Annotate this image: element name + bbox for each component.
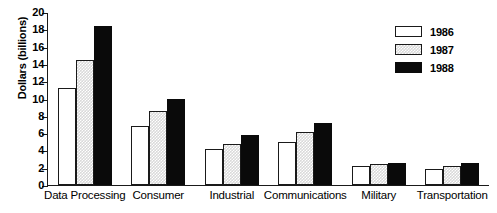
bar-data-processing-1987: [76, 60, 94, 185]
bar-data-processing-1986: [58, 88, 76, 185]
y-tick-label: 10: [32, 93, 44, 105]
legend-swatch-1986: [395, 26, 422, 37]
bar-consumer-1988: [167, 99, 185, 186]
y-tick-label: 18: [32, 23, 44, 35]
y-tick: 0: [47, 186, 48, 187]
bar-transportation-1986: [425, 169, 443, 185]
y-tick-label: 8: [38, 110, 44, 122]
legend-label-1987: 1987: [430, 44, 454, 56]
legend-item-1987: 1987: [395, 42, 454, 57]
bar-consumer-1986: [131, 126, 149, 185]
bar-communications-1986: [278, 142, 296, 185]
legend-swatch-1988: [395, 62, 422, 73]
chart-legend: 198619871988: [395, 24, 454, 78]
bar-chart: Dollars (billions) 02468101214161820 Dat…: [0, 0, 497, 213]
bar-group: [205, 12, 259, 185]
legend-label-1988: 1988: [430, 62, 454, 74]
x-label-transportation: Transportation: [382, 189, 497, 201]
bar-industrial-1987: [223, 144, 241, 185]
y-axis-title: Dollars (billions): [16, 0, 28, 128]
bar-communications-1987: [296, 132, 314, 185]
bar-group: [278, 12, 332, 185]
bar-group: [131, 12, 185, 185]
bar-transportation-1987: [443, 166, 461, 185]
y-tick-label: 4: [38, 144, 44, 156]
y-tick-label: 12: [32, 75, 44, 87]
y-tick-label: 6: [38, 127, 44, 139]
bar-military-1986: [352, 166, 370, 185]
bar-transportation-1988: [461, 163, 479, 185]
legend-label-1986: 1986: [430, 26, 454, 38]
bar-military-1988: [388, 163, 406, 185]
bar-consumer-1987: [149, 111, 167, 185]
bar-industrial-1988: [241, 135, 259, 185]
x-axis-line: [47, 185, 489, 186]
legend-item-1986: 1986: [395, 24, 454, 39]
y-tick-label: 16: [32, 41, 44, 53]
legend-swatch-1987: [395, 44, 422, 55]
bar-industrial-1986: [205, 149, 223, 185]
legend-item-1988: 1988: [395, 60, 454, 75]
bar-group: [58, 12, 112, 185]
bar-military-1987: [370, 164, 388, 185]
y-tick-label: 20: [32, 6, 44, 18]
bar-data-processing-1988: [94, 26, 112, 185]
y-tick-label: 2: [38, 162, 44, 174]
y-tick-label: 14: [32, 58, 44, 70]
bar-communications-1988: [314, 123, 332, 185]
